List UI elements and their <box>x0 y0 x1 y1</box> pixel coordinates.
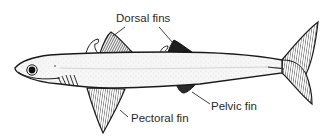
dorsal-leader-1 <box>113 27 125 36</box>
pelvic-leader <box>192 92 210 104</box>
shark-diagram: Dorsal fins Pelvic fin Pectoral fin <box>0 0 332 140</box>
first-dorsal-fin <box>86 32 132 53</box>
pectoral-leader <box>120 110 128 117</box>
dorsal-fins-label: Dorsal fins <box>116 13 170 25</box>
pelvic-fin-label: Pelvic fin <box>211 101 257 113</box>
dorsal-leader-2 <box>159 27 173 43</box>
pectoral-fin-label: Pectoral fin <box>131 113 189 125</box>
pectoral-fin <box>87 88 125 133</box>
second-dorsal-fin <box>160 40 192 53</box>
caudal-fin <box>282 22 318 104</box>
shark-body <box>15 52 284 88</box>
